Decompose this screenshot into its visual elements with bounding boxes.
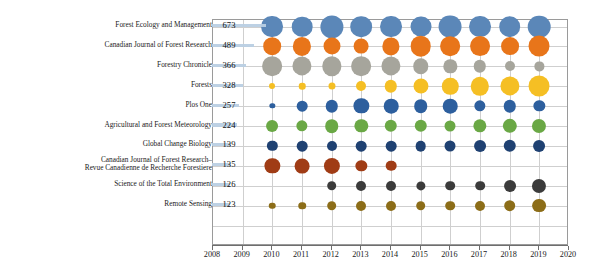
bubble-point [504, 180, 516, 192]
bubble-point [502, 119, 516, 133]
x-axis-label: 2019 [530, 250, 546, 259]
bubble-point [445, 140, 456, 151]
bubble-point [533, 140, 545, 152]
bubble-point [351, 16, 373, 38]
bubble-point [386, 201, 396, 211]
bubble-chart: Forest Ecology and ManagementCanadian Jo… [0, 0, 604, 273]
row-label: Canadian Journal of Forest Research [0, 41, 212, 50]
bubble-point [295, 158, 310, 173]
row-label: Science of the Total Environment [0, 180, 212, 189]
row-label-column: Forest Ecology and ManagementCanadian Jo… [0, 0, 212, 273]
bubble-point [265, 158, 280, 173]
row-value: 126 [212, 179, 246, 189]
bubble-point [414, 120, 426, 132]
gridline-horizontal [213, 226, 567, 227]
row-label: Forestry Chronicle [0, 61, 212, 70]
bubble-point [532, 119, 546, 133]
bubble-point [328, 83, 335, 90]
bubble-point [381, 57, 400, 76]
bubble-point [529, 76, 550, 97]
row-value: 328 [212, 80, 246, 90]
bubble-point [503, 140, 515, 152]
bubble-point [413, 79, 428, 94]
bubble-point [413, 59, 429, 75]
bubble-point [296, 120, 307, 131]
bubble-point [442, 78, 458, 94]
row-value: 224 [212, 120, 246, 130]
bubble-point [414, 99, 428, 113]
bubble-point [384, 99, 399, 114]
bubble-point [382, 38, 399, 55]
bubble-point [320, 15, 343, 38]
row-value: 123 [212, 199, 246, 209]
bubble-point [262, 56, 282, 76]
row-value: 489 [212, 40, 246, 50]
bubble-point [269, 83, 275, 89]
row-label: Remote Sensing [0, 200, 212, 209]
x-axis-label: 2018 [500, 250, 516, 259]
row-label: Forests [0, 81, 212, 90]
bubble-point [499, 16, 521, 38]
bubble-point [385, 120, 397, 132]
bubble-point [444, 60, 457, 73]
bubble-point [410, 16, 431, 37]
bubble-point [355, 119, 368, 132]
bubble-point [415, 141, 426, 152]
bubble-point [270, 103, 275, 108]
bubble-point [534, 100, 545, 111]
row-label: Global Change Biology [0, 140, 212, 149]
bubble-point [532, 179, 546, 193]
bubble-point [469, 16, 491, 38]
bubble-point [327, 141, 337, 151]
bubble-point [386, 160, 397, 171]
gridline-vertical [243, 20, 244, 244]
bubble-point [325, 100, 337, 112]
x-axis-label: 2014 [382, 250, 398, 259]
row-label: Forest Ecology and Management [0, 21, 212, 30]
bubble-point [354, 39, 369, 54]
bubble-point [386, 141, 397, 152]
bubble-point [532, 199, 546, 213]
bubble-point [500, 77, 519, 96]
bubble-point [297, 101, 308, 112]
bubble-point [380, 16, 402, 38]
bubble-point [323, 38, 340, 55]
bubble-point [439, 15, 462, 38]
bubble-point [356, 160, 367, 171]
bubble-point [470, 36, 490, 56]
bubble-point [356, 181, 366, 191]
row-value: 257 [212, 100, 246, 110]
bubble-point [446, 181, 456, 191]
bubble-point [264, 38, 282, 56]
bubble-point [298, 202, 306, 210]
bubble-point [356, 141, 367, 152]
bubble-point [505, 61, 515, 71]
bubble-point [440, 37, 460, 57]
bubble-point [322, 57, 341, 76]
bubble-point [266, 120, 278, 132]
bubble-point [324, 158, 340, 174]
bubble-point [443, 99, 458, 114]
bubble-point [325, 119, 339, 133]
bubble-point [529, 36, 550, 57]
row-label: Plos One [0, 101, 212, 110]
bubble-point [474, 140, 486, 152]
bubble-point [269, 202, 276, 209]
bubble-point [297, 141, 308, 152]
bubble-point [351, 56, 371, 76]
bubble-point [356, 201, 366, 211]
row-value: 135 [212, 159, 246, 169]
bubble-point [292, 16, 313, 37]
x-axis-label: 2013 [352, 250, 368, 259]
x-axis-label: 2011 [293, 250, 309, 259]
bubble-point [293, 37, 311, 55]
x-axis-label: 2009 [233, 250, 249, 259]
bubble-point [473, 119, 486, 132]
bubble-point [504, 200, 516, 212]
row-value: 673 [212, 20, 246, 30]
bubble-point [503, 100, 515, 112]
bubble-point [471, 77, 489, 95]
bubble-point [356, 81, 366, 91]
row-label: Agricultural and Forest Meteorology [0, 121, 212, 130]
bubble-point [475, 181, 485, 191]
